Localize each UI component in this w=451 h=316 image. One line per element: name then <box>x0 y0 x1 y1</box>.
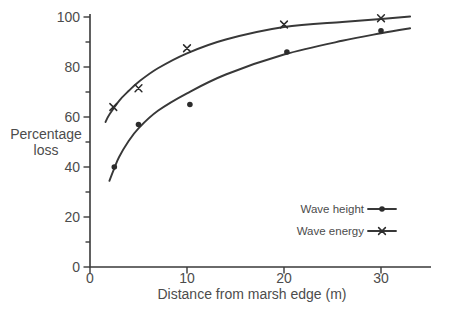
x-tick-label: 20 <box>276 270 292 286</box>
x-tick-label: 0 <box>86 270 94 286</box>
y-tick-label: 20 <box>64 209 80 225</box>
x-axis-title: Distance from marsh edge (m) <box>157 286 346 302</box>
y-tick-label: 100 <box>57 9 81 25</box>
data-point-wave-energy <box>135 85 142 92</box>
data-point-wave-height <box>112 164 118 170</box>
legend-label-wave-energy: Wave energy <box>297 225 365 237</box>
y-tick-label: 0 <box>72 259 80 275</box>
data-point-wave-height <box>187 102 193 108</box>
data-point-wave-energy <box>184 45 191 52</box>
data-point-wave-height <box>378 28 384 34</box>
legend-filled-circle-marker-icon <box>379 206 385 212</box>
y-tick-label: 40 <box>64 159 80 175</box>
data-point-wave-height <box>284 49 290 55</box>
data-series <box>106 15 411 181</box>
y-axis-title-line1: Percentage <box>10 126 82 142</box>
y-axis-title-line2: loss <box>34 142 59 158</box>
y-tick-label: 60 <box>64 109 80 125</box>
data-point-wave-height <box>136 122 142 128</box>
fitted-curve-wave-energy <box>106 17 411 123</box>
y-axis-title: Percentage loss <box>10 126 82 158</box>
axes: 0204060801000102030 <box>57 9 431 286</box>
y-tick-label: 80 <box>64 59 80 75</box>
legend: Wave height Wave energy <box>297 203 396 237</box>
legend-label-wave-height: Wave height <box>301 203 365 215</box>
fitted-curve-wave-height <box>109 28 410 181</box>
x-tick-label: 10 <box>179 270 195 286</box>
x-tick-label: 30 <box>373 270 389 286</box>
figure: 0204060801000102030 Percentage loss Dist… <box>0 0 451 316</box>
wave-attenuation-chart: 0204060801000102030 Percentage loss Dist… <box>0 0 451 316</box>
